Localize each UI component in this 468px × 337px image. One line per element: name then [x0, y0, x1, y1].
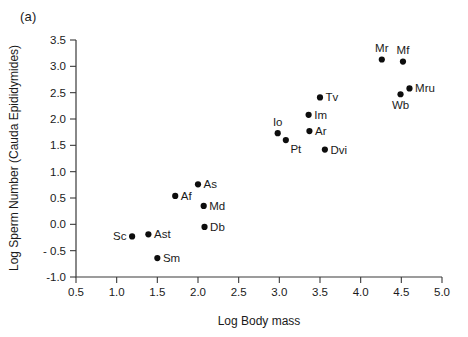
y-tick-label: 2.5 [50, 87, 66, 99]
data-point [129, 233, 135, 239]
data-point-label: Ar [315, 125, 327, 137]
x-tick-label: 2.0 [190, 286, 206, 298]
data-point [195, 181, 201, 187]
data-point [379, 56, 385, 62]
data-point [400, 58, 406, 64]
axis-spines [76, 40, 442, 277]
data-point-label: Wb [392, 99, 409, 111]
x-tick-label: 3.5 [312, 286, 328, 298]
y-tick-label: 3.0 [50, 60, 66, 72]
data-point-label: Tv [326, 91, 339, 103]
data-point [172, 193, 178, 199]
data-point-label: Im [314, 109, 327, 121]
x-tick-label: 3.0 [271, 286, 287, 298]
y-tick-label: -1.0 [46, 271, 66, 283]
x-tick-label: 4.0 [353, 286, 369, 298]
figure-panel: (a) 3.53.02.52.01.51.00.50.0- 0.5-1.00.5… [0, 0, 468, 337]
data-point [306, 112, 312, 118]
data-point [397, 91, 403, 97]
x-tick-label: 4.5 [393, 286, 409, 298]
data-point-label: Sm [163, 252, 180, 264]
x-tick-label: 1.5 [149, 286, 165, 298]
axes [76, 40, 442, 277]
data-point [275, 130, 281, 136]
x-tick-label: 0.5 [68, 286, 84, 298]
data-point-labels: MrMfMruWbTvImArIoPtDviAsAfMdDbAstScSm [113, 42, 435, 264]
data-point-label: Db [210, 221, 225, 233]
data-point-label: As [204, 178, 218, 190]
data-point [154, 255, 160, 261]
data-point-label: Sc [113, 230, 127, 242]
data-point [306, 128, 312, 134]
data-point-label: Mr [375, 42, 389, 54]
y-tick-label: - 0.5 [43, 245, 66, 257]
data-point [317, 94, 323, 100]
y-tick-label: 1.5 [50, 139, 66, 151]
data-point-label: Mf [397, 44, 411, 56]
x-tick-label: 2.5 [231, 286, 247, 298]
data-point-label: Md [209, 200, 225, 212]
y-tick-label: 0.5 [50, 192, 66, 204]
x-tick-label: 5.0 [434, 286, 450, 298]
x-axis-title: Log Body mass [218, 314, 301, 328]
data-point [201, 224, 207, 230]
data-point-label: Mru [415, 82, 435, 94]
data-point [145, 231, 151, 237]
scatter-plot: 3.53.02.52.01.51.00.50.0- 0.5-1.00.51.01… [0, 0, 468, 337]
data-point [406, 85, 412, 91]
data-point-label: Af [181, 190, 193, 202]
tick-marks [70, 40, 442, 283]
data-point-label: Pt [290, 143, 302, 155]
y-tick-label: 0.0 [50, 218, 66, 230]
data-points [129, 56, 413, 261]
tick-labels: 3.53.02.52.01.51.00.50.0- 0.5-1.00.51.01… [43, 34, 450, 298]
y-tick-label: 2.0 [50, 113, 66, 125]
data-point [283, 137, 289, 143]
y-tick-label: 1.0 [50, 166, 66, 178]
data-point-label: Io [273, 116, 283, 128]
y-axis-title: Log Sperm Number (Cauda Epididymides) [7, 45, 21, 271]
data-point-label: Ast [154, 228, 171, 240]
y-tick-label: 3.5 [50, 34, 66, 46]
data-point [322, 146, 328, 152]
data-point [201, 203, 207, 209]
x-tick-label: 1.0 [109, 286, 125, 298]
data-point-label: Dvi [330, 144, 347, 156]
